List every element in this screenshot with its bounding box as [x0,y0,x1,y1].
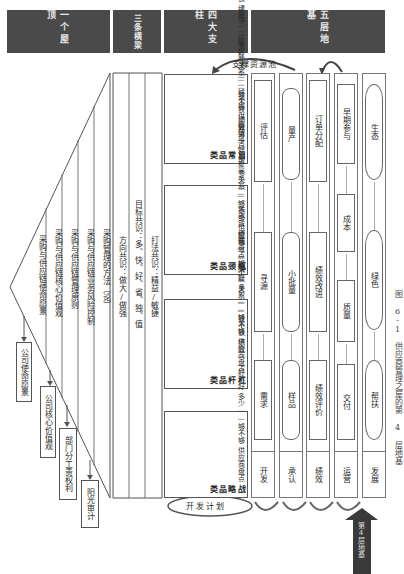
pillar-strategic: 战略品类 供应商盘点 多少——够不够 绩效——好不好 关系——铁不铁 价值——赢… [164,411,248,498]
step-green: 绿色 [365,230,383,330]
step-early-involvement: 早期参与 [337,84,355,164]
step-delivery: 交付 [337,364,355,440]
pillar-line: 关系——铁不铁 [167,176,245,227]
step-small-batch: 小批量 [282,232,300,332]
department-duty-box: 部门分工责权利 [59,428,77,500]
roof-line-values: 采购与供应链核心价值观 [53,229,61,317]
roof-line-risk: 采购与供应链业务风险控制 [85,229,93,325]
pillar-line: 绩效——好不好 [167,339,245,390]
step-evaluate: 评估 [254,80,272,182]
support-pool-label: 支撑资源池 [232,58,277,69]
company-mission-box: 公司使命愿景 [16,342,32,402]
step-demand: 需求 [254,360,272,440]
beam-direction: 方向共识：做大/做强 [117,236,125,317]
dev-plan-label: 开发计划 [186,500,226,511]
step-order-allocation: 订单分配 [309,80,327,182]
foundation-col-performance: 订单分配 绩效改进 绩效评价 绩效 [306,73,330,498]
foundation-col-approve: 量产 小批量 样品 承认 [279,73,303,498]
foundation-col-operations: 早期参与 成本 质量 交付 运营 [334,73,358,498]
pillar-line: 价值——赢不赢 [167,8,245,59]
foundation-base-development: 发展 [363,451,385,497]
step-ecology: 生态 [365,84,383,180]
step-cost: 成本 [337,194,355,252]
pillar-line: 多少——够不够 [167,393,245,444]
pillar-line: 关系——铁不铁 [167,0,245,2]
beam-target: 目标共识：多、快、好、省、独、值 [133,200,141,328]
beam-approach: 打法共识：精益/敏捷 [149,236,157,317]
pillar-line: 价值——赢不赢 [167,122,245,173]
pillar-line: 价值——赢不赢 [167,231,245,282]
pillar-title: 战略品类 [167,485,245,493]
foundation-col-develop: 评估 寻源 需求 开发 [251,73,275,498]
company-values-box: 公司核心价值观 [40,386,56,458]
sunshine-audit-box: 阳光审计 [81,480,99,528]
foundation-base-performance: 绩效 [307,451,329,497]
pillar-line: 关系——铁不铁 [167,285,245,336]
step-sourcing: 寻源 [254,232,272,332]
step-performance-evaluation: 绩效评价 [309,360,327,440]
roof-line-principles: 采购与供应链管理原则 [69,229,77,309]
figure-caption: 图 6-1 供应商管理之屋的第 4 层地基 [392,290,403,465]
foundation-col-development: 生态 绿色 帮扶 发展 [362,73,386,498]
step-sample: 样品 [282,360,300,440]
layer4-arrow-label: 第4层地基 [356,522,366,558]
foundation-base-approve: 承认 [280,451,302,497]
step-performance-improvement: 绩效改进 [309,232,327,332]
pillar-line: 关系——铁不铁 [167,62,245,113]
step-mass-production: 量产 [282,88,300,180]
foundation-base-operations: 运营 [335,451,357,497]
roof-line-method: 采购管理的方法（论） [101,229,109,309]
foundation-base-develop: 开发 [252,451,274,497]
roof-line-mission: 采购与供应链使命愿景 [37,235,45,315]
step-support: 帮扶 [365,360,383,440]
pillar-line: 供应商盘点 [167,447,245,482]
step-quality: 质量 [337,280,355,342]
